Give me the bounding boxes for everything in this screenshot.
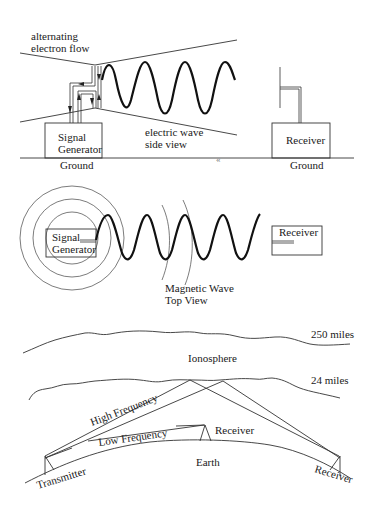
lower-altitude-label: 24 miles (311, 374, 349, 386)
ground-label-right: Ground (290, 159, 324, 171)
antenna-wires (68, 66, 101, 128)
magnetic-wave (96, 214, 260, 259)
high-frequency-path-down-1 (190, 380, 339, 456)
receiver-label: Receiver (286, 134, 325, 146)
envelope-bottom-left (20, 108, 95, 122)
earth-label: Earth (196, 456, 220, 468)
electron-flow-label-line2: electron flow (31, 42, 89, 54)
signal-generator-label-line2: Generator (58, 143, 102, 155)
panel-electric-wave-side-view: Signal Generator alternating electron fl… (20, 30, 354, 171)
near-receiver-label: Receiver (215, 424, 254, 436)
electric-wave-label-line2: side view (145, 138, 187, 150)
radio-wave-diagram: Signal Generator alternating electron fl… (0, 0, 373, 517)
envelope-top-right (95, 40, 237, 65)
magnetic-arc-2 (183, 200, 192, 285)
receiver-top-label: Receiver (279, 226, 318, 238)
magnetic-wave-label-line2: Top View (165, 294, 208, 306)
transmitter-label: Transmitter (35, 464, 88, 490)
signal-generator-label-line1: Signal (58, 131, 86, 143)
panel-magnetic-wave-top-view: Signal Generator Receiver Magnetic Wave … (20, 186, 322, 306)
ground-label-left: Ground (60, 159, 94, 171)
high-frequency-label: High Frequency (88, 391, 159, 428)
electric-wave (102, 62, 235, 114)
far-receiver-label: Receiver (313, 462, 354, 485)
magnetic-arc-1 (162, 205, 170, 280)
electron-flow-label-line1: alternating (31, 30, 79, 42)
high-frequency-path-up-2 (45, 381, 223, 458)
upper-altitude-label: 250 miles (311, 328, 354, 340)
ionosphere-label: Ionosphere (188, 352, 237, 364)
ground-break-symbol: « (216, 154, 221, 164)
magnetic-wave-label-line1: Magnetic Wave (165, 282, 234, 294)
near-receiver-antenna (200, 425, 211, 441)
electric-wave-label-line1: electric wave (145, 126, 203, 138)
low-frequency-path (45, 448, 72, 458)
ionosphere-lower-boundary (29, 378, 340, 400)
panel-ionosphere-propagation: 250 miles Ionosphere 24 miles (23, 328, 355, 491)
high-frequency-path-down-2 (223, 381, 340, 458)
envelope-top-left (20, 53, 95, 65)
signal-generator-top-label-line1: Signal (52, 231, 80, 243)
signal-generator-top-label-line2: Generator (52, 243, 96, 255)
ionosphere-upper-boundary (23, 331, 350, 353)
